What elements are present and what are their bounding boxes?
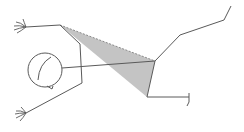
sketch-canvas bbox=[0, 0, 244, 132]
lower-hand-fingers bbox=[15, 107, 26, 121]
right-upper-limb bbox=[155, 6, 231, 61]
stick-figure-drawing bbox=[0, 0, 244, 132]
head-inner-arc bbox=[38, 57, 51, 80]
right-foot-hook bbox=[187, 93, 189, 106]
shaded-triangle bbox=[60, 25, 155, 97]
left-body-line bbox=[26, 25, 82, 113]
head-circle bbox=[28, 53, 62, 87]
upper-left-arm bbox=[26, 25, 60, 27]
upper-hand-fingers bbox=[14, 19, 26, 33]
